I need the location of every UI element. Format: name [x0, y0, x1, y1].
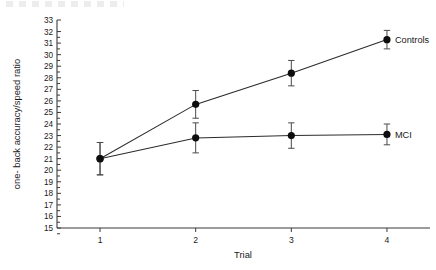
x-tick-label: 3 [289, 235, 294, 245]
series-mci [96, 123, 390, 175]
data-point [288, 70, 295, 77]
y-tick-label: 24 [44, 120, 54, 129]
chart-figure: 15161718192021222324252627282930313233 1… [0, 0, 436, 270]
data-point [192, 134, 199, 141]
y-tick-label: 32 [44, 28, 54, 37]
y-tick-label: 19 [44, 178, 54, 187]
y-tick-label: 16 [44, 212, 54, 221]
y-tick-group [57, 20, 61, 234]
series-layer [96, 30, 390, 174]
y-tick-label: 17 [44, 201, 54, 210]
y-tick-label: 27 [44, 85, 54, 94]
y-tick-label: 31 [44, 39, 54, 48]
y-tick-label-group: 15161718192021222324252627282930313233 [44, 16, 54, 233]
y-tick-label: 23 [44, 132, 54, 141]
data-point [288, 132, 295, 139]
y-tick-label: 26 [44, 97, 54, 106]
data-point [192, 101, 199, 108]
x-tick-label: 4 [385, 235, 390, 245]
x-tick-label: 2 [193, 235, 198, 245]
y-tick-label: 29 [44, 62, 54, 71]
x-tick-label-group: 1234 [98, 235, 390, 245]
data-point [96, 155, 103, 162]
line-chart: 15161718192021222324252627282930313233 1… [0, 0, 436, 270]
data-point [383, 131, 390, 138]
y-axis-title: one- back accuracy/speed ratio [11, 59, 22, 189]
axes [57, 20, 430, 228]
series-line [100, 134, 387, 158]
y-tick-label: 20 [44, 166, 54, 175]
y-tick-label: 15 [44, 224, 54, 233]
series-label-group: ControlsMCI [395, 35, 430, 140]
y-tick-label: 18 [44, 189, 54, 198]
data-point [383, 36, 390, 43]
y-tick-label: 33 [44, 16, 54, 25]
y-tick-label: 21 [44, 155, 54, 164]
y-tick-label: 28 [44, 74, 54, 83]
y-tick-label: 30 [44, 51, 54, 60]
x-tick-label: 1 [98, 235, 103, 245]
series-label-controls: Controls [395, 35, 430, 45]
y-tick-label: 22 [44, 143, 54, 152]
series-label-mci: MCI [395, 130, 412, 140]
x-tick-group [100, 228, 387, 232]
x-axis-title: Trial [234, 249, 252, 260]
series-controls [96, 30, 390, 174]
scan-artifact [6, 1, 124, 7]
series-line [100, 40, 387, 159]
y-tick-label: 25 [44, 108, 54, 117]
